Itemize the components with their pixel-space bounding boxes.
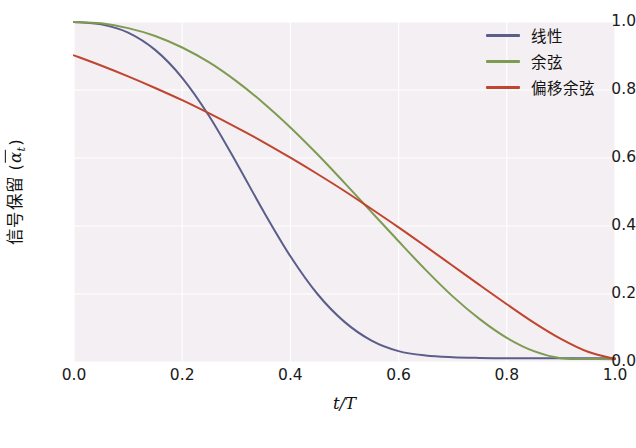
x-tick-label: 0.6 — [369, 368, 429, 384]
chart-figure: 0.00.20.40.60.81.0 0.00.20.40.60.81.0 信号… — [0, 0, 636, 448]
legend-color-swatch — [486, 60, 520, 63]
series-line — [74, 55, 615, 359]
y-tick-label: 0.6 — [574, 150, 636, 166]
x-tick-label: 1.0 — [585, 368, 636, 384]
legend-item: 偏移余弦 — [486, 74, 618, 100]
alpha-subscript: t — [15, 147, 28, 152]
legend-item-label: 余弦 — [531, 50, 563, 72]
legend-color-swatch — [486, 34, 520, 37]
x-tick-label: 0.4 — [260, 368, 320, 384]
y-axis-label: 信号保留 (αt) — [2, 22, 28, 362]
x-tick-label: 0.2 — [152, 368, 212, 384]
legend-item: 余弦 — [486, 48, 618, 74]
x-tick-label: 0.0 — [44, 368, 104, 384]
legend-item: 线性 — [486, 22, 618, 48]
y-axis-label-text: 信号保留 ( — [6, 164, 25, 245]
alpha-bar-symbol: αt — [6, 146, 25, 164]
legend-item-label: 线性 — [531, 24, 563, 46]
legend: 线性余弦偏移余弦 — [486, 22, 618, 100]
x-axis-label: t/T — [74, 394, 615, 413]
legend-item-label: 偏移余弦 — [531, 76, 595, 98]
y-tick-label: 0.4 — [574, 218, 636, 234]
y-tick-label: 0.2 — [574, 286, 636, 302]
legend-color-swatch — [486, 86, 520, 89]
alpha-glyph: α — [6, 152, 25, 163]
x-tick-label: 0.8 — [477, 368, 537, 384]
